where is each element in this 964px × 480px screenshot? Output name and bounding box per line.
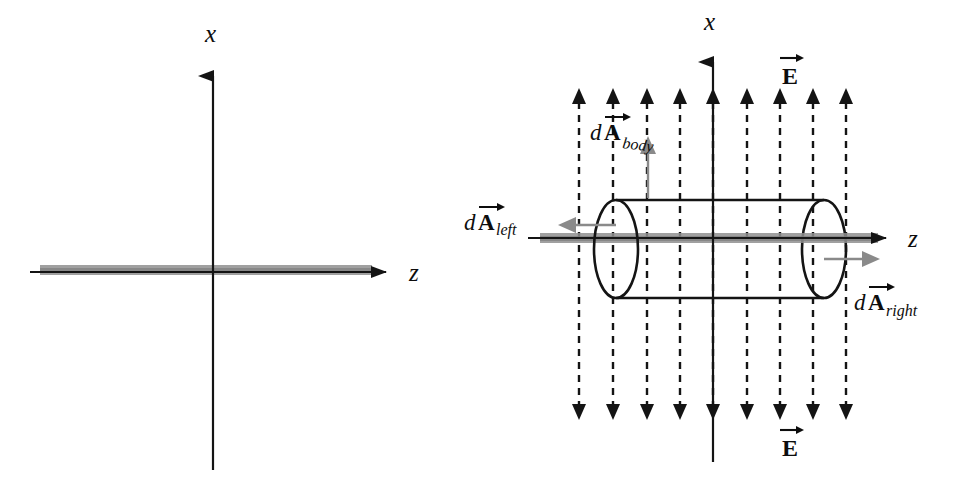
- svg-text:d: d: [464, 210, 476, 235]
- E-label-top: E: [780, 54, 804, 89]
- right-x-axis-label: x: [703, 8, 715, 35]
- field-line: [740, 88, 754, 420]
- svg-text:A: A: [604, 120, 621, 145]
- svg-text:E: E: [782, 435, 798, 461]
- svg-text:d: d: [590, 120, 602, 145]
- left-z-axis-label: z: [408, 259, 419, 286]
- cylinder-right-cap: [802, 200, 846, 298]
- field-line: [673, 88, 687, 420]
- field-line: [773, 88, 787, 420]
- dA-left-arrow: [558, 217, 616, 233]
- right-z-axis-label: z: [907, 225, 918, 252]
- figure-canvas: x z: [0, 0, 964, 480]
- svg-text:E: E: [782, 63, 798, 89]
- dA-right-arrow: [824, 251, 880, 267]
- dA-left-label: d A left: [464, 203, 517, 239]
- dA-right-label: d A right: [854, 283, 918, 320]
- right-panel: x z E E: [464, 8, 918, 462]
- svg-text:d: d: [854, 290, 866, 315]
- svg-text:A: A: [868, 290, 885, 315]
- svg-text:A: A: [478, 210, 495, 235]
- svg-text:left: left: [496, 221, 517, 239]
- dA-body-label: d A body: [590, 113, 655, 156]
- field-line: [806, 88, 820, 420]
- field-line: [572, 88, 586, 420]
- cylinder-left-cap: [594, 200, 638, 298]
- left-x-axis-label: x: [204, 20, 216, 47]
- left-panel: x z: [30, 20, 419, 470]
- E-label-bottom: E: [780, 426, 804, 461]
- svg-text:body: body: [622, 134, 656, 156]
- svg-text:right: right: [886, 302, 918, 320]
- physics-figure: x z: [0, 0, 964, 480]
